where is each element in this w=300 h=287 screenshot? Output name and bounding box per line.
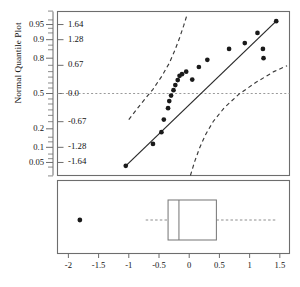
z-tick-label: 0.0: [68, 88, 79, 98]
data-point: [274, 19, 279, 24]
data-point: [167, 99, 172, 104]
x-tick-label: 0: [175, 260, 203, 270]
quantile-plot-figure: Normal Quantile Plot 0.950.90.80.50.20.1…: [0, 0, 300, 287]
boxplot-box: [168, 200, 216, 240]
data-point: [123, 163, 128, 168]
boxplot-panel-frame: [58, 181, 290, 254]
data-point: [261, 56, 266, 61]
probability-tick-label: 0.8: [10, 53, 44, 63]
data-point: [242, 41, 247, 46]
data-point: [227, 47, 232, 52]
data-point: [173, 83, 178, 88]
boxplot-outlier-point: [77, 218, 82, 223]
data-point: [169, 93, 174, 98]
z-tick-label: 0.67: [68, 59, 83, 69]
data-point: [197, 65, 202, 70]
data-point: [161, 117, 166, 122]
confidence-band-upper: [129, 14, 188, 120]
probability-tick-label: 0.5: [10, 88, 44, 98]
plot-canvas: [0, 0, 300, 287]
data-point: [159, 130, 164, 135]
x-tick-label: -1: [115, 260, 143, 270]
data-point: [205, 58, 210, 63]
z-tick-label: -1.64: [68, 156, 86, 166]
data-point: [171, 88, 176, 93]
z-tick-label: -1.28: [68, 141, 86, 151]
data-point: [175, 78, 180, 83]
x-tick-label: -0.5: [145, 260, 173, 270]
data-point: [166, 106, 171, 111]
z-tick-label: 1.64: [68, 19, 83, 29]
data-point: [261, 47, 266, 52]
probability-tick-label: 0.95: [10, 19, 44, 29]
z-tick-label: 1.28: [68, 34, 83, 44]
probability-tick-label: 0.2: [10, 123, 44, 133]
probability-tick-label: 0.9: [10, 34, 44, 44]
probability-tick-label: 0.05: [10, 157, 44, 167]
x-tick-label: -1.5: [85, 260, 113, 270]
fitted-reference-line: [126, 21, 276, 166]
x-tick-label: -2: [54, 260, 82, 270]
z-tick-label: -0.67: [68, 116, 86, 126]
probability-tick-label: 0.1: [10, 142, 44, 152]
x-tick-label: 0.5: [205, 260, 233, 270]
data-point: [184, 69, 189, 74]
x-tick-label: 1.5: [266, 260, 294, 270]
data-point: [151, 142, 156, 147]
data-point: [180, 72, 185, 77]
x-tick-label: 1: [236, 260, 264, 270]
data-point: [255, 31, 260, 36]
data-point: [190, 77, 195, 82]
confidence-band-lower: [190, 66, 287, 176]
